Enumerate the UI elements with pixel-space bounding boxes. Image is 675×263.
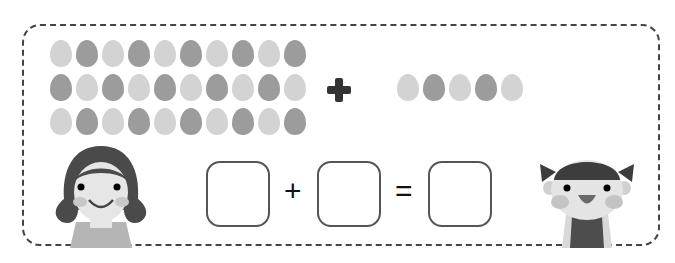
- egg-icon: [50, 40, 72, 67]
- egg-icon: [128, 108, 150, 135]
- egg-icon: [232, 74, 254, 101]
- egg-row-3: [50, 108, 306, 135]
- egg-icon: [501, 74, 523, 101]
- egg-icon: [50, 108, 72, 135]
- answer-box-2[interactable]: [317, 161, 381, 227]
- egg-icon: [76, 108, 98, 135]
- egg-icon: [154, 74, 176, 101]
- egg-icon: [76, 74, 98, 101]
- egg-icon: [154, 108, 176, 135]
- egg-icon: [180, 74, 202, 101]
- egg-row-1: [50, 40, 306, 67]
- egg-icon: [102, 74, 124, 101]
- egg-icon: [423, 74, 445, 101]
- egg-icon: [180, 40, 202, 67]
- egg-row-2: [50, 74, 306, 101]
- egg-icon: [128, 40, 150, 67]
- egg-icon: [258, 40, 280, 67]
- egg-icon: [206, 108, 228, 135]
- egg-icon: [206, 40, 228, 67]
- girl-illustration: [50, 144, 152, 248]
- egg-icon: [258, 108, 280, 135]
- egg-icon: [102, 108, 124, 135]
- egg-icon: [232, 40, 254, 67]
- egg-icon: [206, 74, 228, 101]
- egg-icon: [284, 40, 306, 67]
- egg-icon: [258, 74, 280, 101]
- answer-box-1[interactable]: [206, 161, 270, 227]
- egg-icon: [449, 74, 471, 101]
- plus-sign: +: [284, 176, 302, 206]
- egg-icon: [102, 40, 124, 67]
- egg-icon: [128, 74, 150, 101]
- answer-box-3[interactable]: [428, 161, 492, 227]
- egg-icon: [76, 40, 98, 67]
- plus-icon: [327, 78, 351, 102]
- egg-icon: [154, 40, 176, 67]
- child-illustration: [540, 150, 634, 248]
- egg-group-b: [397, 74, 523, 101]
- egg-icon: [397, 74, 419, 101]
- egg-icon: [475, 74, 497, 101]
- equals-sign: =: [395, 176, 413, 206]
- egg-icon: [50, 74, 72, 101]
- egg-icon: [284, 74, 306, 101]
- egg-icon: [180, 108, 202, 135]
- egg-icon: [284, 108, 306, 135]
- egg-icon: [232, 108, 254, 135]
